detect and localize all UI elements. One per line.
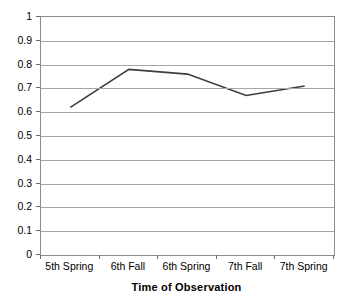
x-tick-mark xyxy=(333,255,334,259)
x-tick-mark xyxy=(40,255,41,259)
gridline xyxy=(41,207,334,208)
y-tick-label: 0.5 xyxy=(17,130,32,141)
gridline xyxy=(41,184,334,185)
gridline xyxy=(41,160,334,161)
x-tick-label: 7th Spring xyxy=(280,261,328,272)
y-tick-label: 0.8 xyxy=(17,58,32,69)
y-tick-label: 0.7 xyxy=(17,82,32,93)
y-tick-label: 0.4 xyxy=(17,154,32,165)
gridline xyxy=(41,112,334,113)
x-tick-mark xyxy=(99,255,100,259)
gridline xyxy=(41,88,334,89)
x-tick-mark xyxy=(157,255,158,259)
gridline xyxy=(41,231,334,232)
gridline xyxy=(41,65,334,66)
x-axis-title: Time of Observation xyxy=(40,281,333,293)
x-tick-label: 5th Spring xyxy=(45,261,93,272)
y-tick-label: 1 xyxy=(26,11,32,22)
gridline xyxy=(41,41,334,42)
y-tick-label: 0.6 xyxy=(17,106,32,117)
y-tick-label: 0 xyxy=(26,249,32,260)
y-tick-label: 0.1 xyxy=(17,225,32,236)
y-tick-label: 0.3 xyxy=(17,177,32,188)
x-tick-label: 7th Fall xyxy=(228,261,262,272)
y-axis: 00.10.20.30.40.50.60.70.80.91 xyxy=(0,0,40,306)
plot-area xyxy=(40,16,335,256)
x-tick-label: 6th Spring xyxy=(163,261,211,272)
x-tick-mark xyxy=(216,255,217,259)
x-tick-mark xyxy=(274,255,275,259)
y-tick-label: 0.2 xyxy=(17,201,32,212)
x-tick-label: 6th Fall xyxy=(111,261,145,272)
gridline xyxy=(41,136,334,137)
line-chart: 00.10.20.30.40.50.60.70.80.91 5th Spring… xyxy=(0,0,356,306)
y-tick-label: 0.9 xyxy=(17,35,32,46)
x-axis-labels: 5th Spring6th Fall6th Spring7th Fall7th … xyxy=(40,261,333,277)
